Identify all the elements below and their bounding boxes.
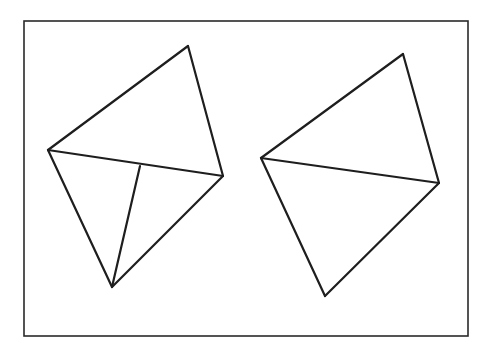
right-figure-edge-left-apex [261, 54, 403, 158]
left-figure-edge-apex-right [188, 46, 223, 176]
right-quadrilateral [261, 54, 439, 296]
right-figure-edge-left-bottom [261, 158, 325, 296]
diagram-canvas [0, 0, 490, 356]
right-figure-edge-bottom-right [325, 183, 439, 296]
left-figure-edge-left-right [48, 150, 223, 176]
right-figure-edge-left-right [261, 158, 439, 183]
left-quadrilateral [48, 46, 223, 287]
left-figure-edge-left-apex [48, 46, 188, 150]
right-figure-edge-apex-right [403, 54, 439, 183]
left-figure-interior-segment [112, 166, 140, 287]
left-figure-edge-bottom-right [112, 176, 223, 287]
left-figure-edge-left-bottom [48, 150, 112, 287]
